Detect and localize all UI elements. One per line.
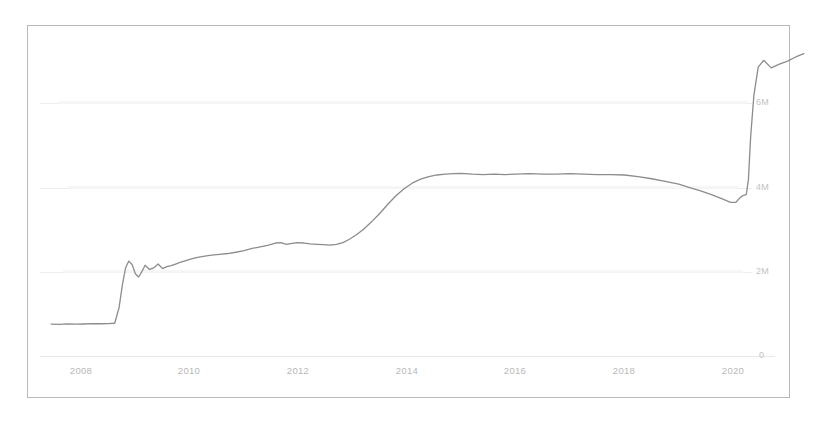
series-line-1 bbox=[51, 54, 804, 325]
series-plot bbox=[28, 26, 789, 397]
plot-area: 6M 4M 2M 0 2008 2010 2012 2014 2016 2018… bbox=[28, 26, 789, 397]
chart-root: 6M 4M 2M 0 2008 2010 2012 2014 2016 2018… bbox=[0, 0, 814, 425]
